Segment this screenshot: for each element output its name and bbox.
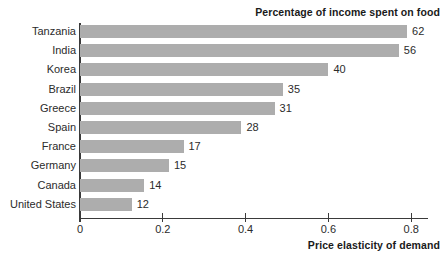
bar-value-label: 14 xyxy=(149,178,161,192)
bar-row: Greece31 xyxy=(0,102,448,115)
bar-row: Korea40 xyxy=(0,63,448,76)
category-label: France xyxy=(0,139,76,153)
category-label: Korea xyxy=(0,62,76,76)
category-label: United States xyxy=(0,197,76,211)
x-tick-label: 0.6 xyxy=(321,223,336,235)
bar xyxy=(80,63,328,76)
bar-value-label: 62 xyxy=(412,24,424,38)
x-tick-label: 0.8 xyxy=(404,223,419,235)
bar xyxy=(80,198,132,211)
bar-value-label: 17 xyxy=(189,139,201,153)
bar-row: Brazil35 xyxy=(0,83,448,96)
bar-value-label: 35 xyxy=(288,82,300,96)
bar-value-label: 56 xyxy=(404,43,416,57)
chart-figure: Percentage of income spent on food 00.20… xyxy=(0,0,448,260)
bar-row: Spain28 xyxy=(0,121,448,134)
x-tick-mark xyxy=(162,213,163,222)
bar-value-label: 28 xyxy=(246,120,258,134)
bar xyxy=(80,121,241,134)
x-tick-mark xyxy=(79,213,80,222)
bar-value-label: 31 xyxy=(280,101,292,115)
category-label: Greece xyxy=(0,101,76,115)
x-tick-label: 0.2 xyxy=(155,223,170,235)
bar xyxy=(80,140,184,153)
x-axis-title: Price elasticity of demand xyxy=(308,239,440,251)
x-axis-line xyxy=(79,218,428,220)
bar xyxy=(80,25,407,38)
category-label: Germany xyxy=(0,158,76,172)
bar xyxy=(80,102,275,115)
bar-row: Germany15 xyxy=(0,159,448,172)
x-tick-mark xyxy=(245,213,246,222)
bar-value-label: 12 xyxy=(137,197,149,211)
bar-value-label: 15 xyxy=(174,158,186,172)
category-label: Canada xyxy=(0,178,76,192)
category-label: India xyxy=(0,43,76,57)
x-tick-mark xyxy=(411,213,412,222)
bar xyxy=(80,44,399,57)
x-tick-label: 0 xyxy=(77,223,83,235)
plot-area: 00.20.40.60.8 Tanzania62India56Korea40Br… xyxy=(0,0,448,260)
bar-row: United States12 xyxy=(0,198,448,211)
category-label: Spain xyxy=(0,120,76,134)
x-tick-mark xyxy=(328,213,329,222)
bar-value-label: 40 xyxy=(333,62,345,76)
bar xyxy=(80,179,144,192)
bar-row: Tanzania62 xyxy=(0,25,448,38)
category-label: Tanzania xyxy=(0,24,76,38)
bar-row: France17 xyxy=(0,140,448,153)
category-label: Brazil xyxy=(0,82,76,96)
x-tick-label: 0.4 xyxy=(238,223,253,235)
bar-row: India56 xyxy=(0,44,448,57)
bar xyxy=(80,159,169,172)
bar-row: Canada14 xyxy=(0,179,448,192)
bar xyxy=(80,83,283,96)
